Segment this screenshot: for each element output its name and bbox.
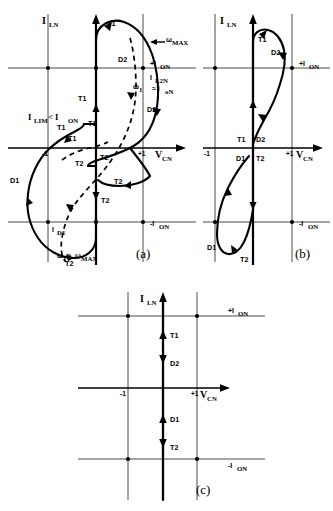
- panel-c-arrow-t2-down: [159, 439, 167, 448]
- panel-a-ion-negative-label: -I: [150, 220, 154, 227]
- panel-b-x-axis-label-sub: CN: [303, 155, 313, 162]
- panel-b-traj-upper-loop: [253, 30, 285, 144]
- panel-c-node-dot: [126, 314, 130, 318]
- panel-a-device-t2-bottom: T2: [65, 259, 73, 268]
- panel-a-tick-right: +1: [138, 150, 146, 157]
- panel-b-traj-lower-loop: [217, 156, 253, 254]
- panel-a-y-axis-label-sub: LN: [49, 21, 59, 28]
- panel-c-device-t1-upper: T1: [170, 331, 178, 340]
- panel-b-tick-left: -1: [204, 150, 210, 157]
- panel-b-x-axis-arrow: [313, 144, 323, 152]
- panel-c-arrow-d2-down: [159, 355, 167, 364]
- panel-c-y-axis-label: I: [140, 293, 144, 304]
- panel-c-tick-right: +1: [191, 390, 199, 397]
- panel-b-y-axis-arrow: [249, 14, 257, 24]
- panel-b-y-axis-label-sub: LN: [227, 21, 237, 28]
- figure-root: I LN V CN -1 +1 ω MAX ω 1 +I ON -I ON I …: [0, 0, 333, 511]
- panel-a-id1-label-sub: D1: [57, 229, 66, 236]
- panel-a-device-t1-axis-upper: T1: [78, 94, 86, 103]
- panel-b-caption: (b): [295, 246, 310, 261]
- panel-b-ion-positive-label: +I: [299, 60, 305, 67]
- panel-c: I LN V CN -1 +1 +I ON -I ON T1 D2 D1 T2 …: [78, 292, 265, 500]
- panel-a-device-d2-right: D2: [147, 105, 156, 114]
- panel-a-condition-label-sub: LIM: [34, 117, 48, 124]
- panel-a-traj-lower-left-loop: [27, 124, 96, 258]
- panel-c-arrow-d1-up: [159, 414, 167, 423]
- panel-a-arrow-dashed-down: [127, 92, 135, 100]
- panel-a-device-t1-upper-arc: T1: [107, 19, 115, 28]
- panel-b-device-t1-upper: T1: [258, 35, 266, 44]
- panel-b-device-t1-center: T1: [237, 135, 245, 144]
- panel-a-id1-label: I: [52, 226, 54, 233]
- panel-b-device-d1-lower: D1: [207, 243, 216, 252]
- panel-b-device-d2-center: D2: [256, 135, 265, 144]
- panel-a-omega-max-leader-arrow: [150, 39, 157, 45]
- panel-a-arrow-t1-axis-up: [92, 104, 99, 112]
- panel-a-caption: (a): [136, 246, 150, 261]
- panel-c-device-t2-lower: T2: [170, 443, 178, 452]
- panel-b-node-dot: [290, 66, 294, 70]
- panel-a-omega-max-label-sub: MAX: [172, 39, 188, 46]
- panel-a-device-d2-upper: D2: [118, 55, 127, 64]
- panel-a-device-t1-center: T1: [88, 119, 96, 128]
- panel-a-note-omegamax-sub: MAX: [81, 255, 97, 262]
- panel-a-arrow-t2-axis-down: [92, 192, 99, 200]
- panel-c-tick-left: -1: [120, 390, 126, 397]
- panel-a-node-dot: [46, 220, 50, 224]
- panel-a-ion-approx-label: ≈ I: [152, 85, 160, 92]
- panel-b-node-dot: [213, 66, 217, 70]
- panel-b-arrow-axis-up: [249, 100, 256, 108]
- panel-a-il2n-label-sub: L2N: [155, 77, 168, 84]
- panel-c-y-axis-label-sub: LN: [147, 299, 157, 306]
- panel-b-arrow-axis-down: [249, 202, 256, 210]
- panel-a-node-dot: [46, 66, 50, 70]
- panel-a-x-axis-label-sub: CN: [162, 155, 172, 162]
- panel-a-device-t1-left-arc: T1: [57, 123, 65, 132]
- panel-a-device-t1-dashed: T1: [68, 134, 76, 143]
- panel-a-device-t2-axis-lower: T2: [101, 196, 109, 205]
- panel-b-ion-positive-label-sub: ON: [309, 63, 319, 70]
- panel-a-node-dot: [141, 220, 145, 224]
- panel-b-ion-negative-label: -I: [299, 220, 303, 227]
- panel-b-device-d2-upper: D2: [271, 48, 280, 57]
- panel-a-note-gt: >: [67, 252, 71, 259]
- panel-a-device-t2-center: T2: [75, 159, 83, 168]
- panel-c-device-d2-upper: D2: [170, 359, 179, 368]
- panel-a-ion-negative-label-sub: ON: [159, 223, 169, 230]
- panel-a-il2n-label: I: [150, 74, 152, 81]
- panel-a-condition-label: I: [28, 112, 32, 122]
- panel-c-x-axis-arrow: [220, 384, 230, 392]
- panel-b-ion-negative-label-sub: ON: [308, 223, 318, 230]
- panel-a-tick-left: -1: [42, 150, 48, 157]
- panel-b-device-d1-center: D1: [236, 154, 245, 163]
- panel-a-ion-positive-label-sub: ON: [160, 63, 170, 70]
- panel-a-traj-upper-right-loop: [88, 21, 158, 166]
- panel-b: I LN V CN -1 +1 +I ON -I ON T1 D2 T1 D2 …: [203, 14, 330, 265]
- panel-a-x-axis-arrow: [176, 144, 186, 152]
- panel-a-traj-t2-return: [98, 176, 150, 186]
- panel-a: I LN V CN -1 +1 ω MAX ω 1 +I ON -I ON I …: [8, 14, 196, 268]
- panel-c-ion-positive-label: +I: [228, 307, 234, 314]
- panel-a-y-axis-arrow: [92, 14, 100, 24]
- panel-a-omega-one-label-sub: 1: [139, 86, 143, 93]
- panel-a-y-axis-label: I: [42, 15, 46, 26]
- panel-a-condition-rest-sub: ON: [68, 117, 78, 124]
- panel-c-ion-positive-label-sub: ON: [238, 310, 248, 317]
- panel-a-device-t2-dashed: T2: [100, 153, 108, 162]
- panel-b-y-axis-label: I: [220, 15, 224, 26]
- panel-a-device-d1-left: D1: [10, 176, 19, 185]
- panel-b-node-dot: [213, 220, 217, 224]
- panel-c-node-dot: [195, 457, 199, 461]
- panel-b-tick-right: +1: [286, 150, 294, 157]
- panel-c-node-dot: [126, 457, 130, 461]
- panel-c-node-dot: [195, 314, 199, 318]
- panel-a-ion-approx-label-sub: oN: [165, 88, 173, 95]
- panel-c-arrow-t1-up: [159, 330, 167, 339]
- panel-c-x-axis-label-sub: CN: [207, 395, 217, 402]
- panel-a-node-dot: [141, 66, 145, 70]
- panel-b-device-t2-lower: T2: [240, 255, 248, 264]
- panel-b-node-dot: [290, 220, 294, 224]
- panel-c-ion-negative-label-sub: ON: [237, 465, 247, 472]
- state-plane-figure: I LN V CN -1 +1 ω MAX ω 1 +I ON -I ON I …: [0, 0, 333, 511]
- panel-c-ion-negative-label: -I: [228, 462, 232, 469]
